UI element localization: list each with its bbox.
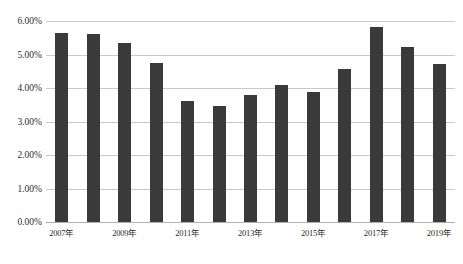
y-axis-tick-label: 4.00% bbox=[0, 83, 42, 93]
x-axis-tick-label: 2019年 bbox=[427, 226, 452, 238]
bar bbox=[338, 69, 351, 222]
bar bbox=[370, 27, 383, 222]
bar bbox=[275, 85, 288, 222]
plot-area bbox=[46, 21, 455, 222]
bar bbox=[55, 33, 68, 222]
y-axis-tick-label: 3.00% bbox=[0, 117, 42, 127]
x-axis-tick-labels: 2007年2009年2011年2013年2015年2017年2019年 bbox=[46, 226, 455, 240]
x-axis-tick-label: 2013年 bbox=[238, 226, 263, 238]
y-axis-tick-label: 0.00% bbox=[0, 217, 42, 227]
bar bbox=[181, 101, 194, 222]
x-axis-tick-label: 2017年 bbox=[364, 226, 389, 238]
x-axis-tick-label: 2009年 bbox=[112, 226, 137, 238]
y-axis-tick-label: 2.00% bbox=[0, 150, 42, 160]
y-axis-tick-label: 1.00% bbox=[0, 184, 42, 194]
y-axis-tick-label: 6.00% bbox=[0, 16, 42, 26]
gridline bbox=[46, 222, 455, 223]
bar bbox=[307, 92, 320, 222]
bar bbox=[118, 43, 131, 222]
bar-series bbox=[46, 21, 455, 222]
bar-chart-figure: 0.00%1.00%2.00%3.00%4.00%5.00%6.00% 2007… bbox=[0, 0, 463, 264]
x-axis-tick-label: 2007年 bbox=[49, 226, 74, 238]
x-axis-tick-label: 2015年 bbox=[301, 226, 326, 238]
bar bbox=[244, 95, 257, 222]
bar bbox=[433, 64, 446, 222]
y-axis-tick-label: 5.00% bbox=[0, 50, 42, 60]
bar bbox=[87, 34, 100, 222]
bar bbox=[150, 63, 163, 222]
bar bbox=[401, 47, 414, 222]
bar bbox=[213, 106, 226, 222]
x-axis-tick-label: 2011年 bbox=[175, 226, 200, 238]
